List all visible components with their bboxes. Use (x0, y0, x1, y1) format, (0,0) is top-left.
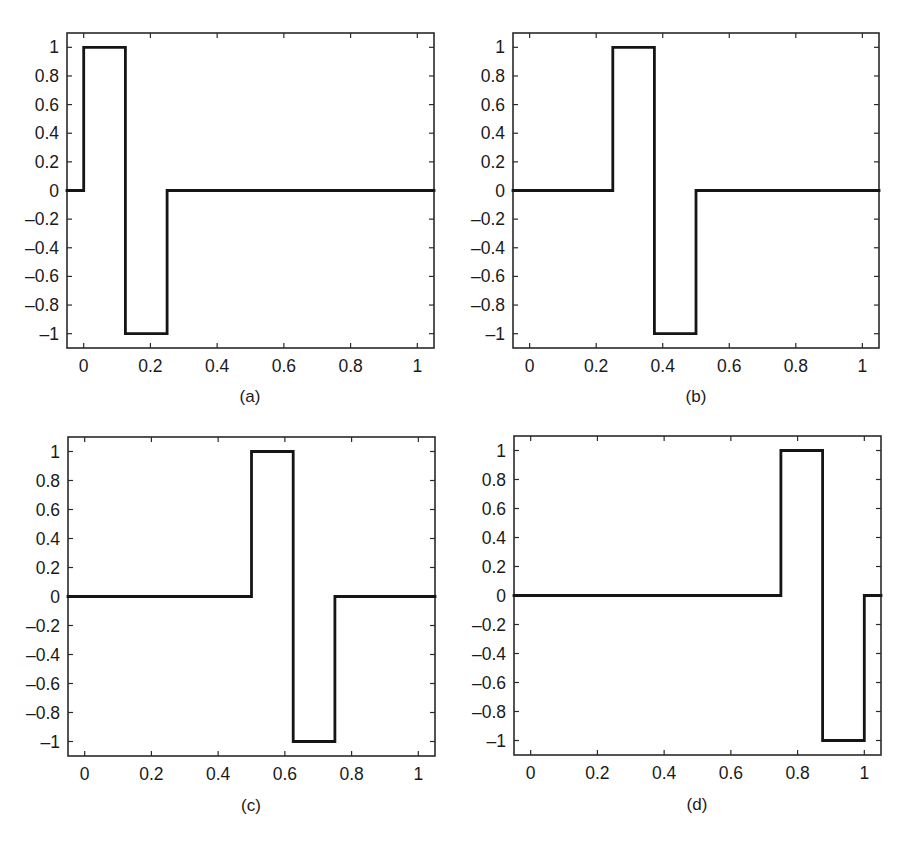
y-tick-label: 1 (495, 37, 505, 57)
x-tick-label: 1 (857, 356, 867, 376)
wavelet-curve (513, 47, 879, 333)
y-tick-label: –0.2 (25, 209, 59, 229)
x-tick-label: 0.4 (206, 764, 231, 784)
y-tick-label: –0.4 (471, 238, 505, 258)
y-tick-label: 1 (496, 441, 506, 461)
y-tick-label: 0.8 (481, 66, 505, 86)
x-tick-label: 0 (80, 764, 90, 784)
x-tick-label: 0.4 (652, 763, 677, 783)
y-tick-label: 0.6 (482, 499, 506, 519)
figure-canvas: 10.80.60.40.20–0.2–0.4–0.6–0.8–1 00.20.4… (0, 0, 900, 841)
panel-a: 10.80.60.40.20–0.2–0.4–0.6–0.8–1 00.20.4… (25, 33, 434, 406)
y-tick-label: –0.4 (25, 238, 59, 258)
wavelet-curve (514, 451, 881, 741)
y-tick-label: –1 (41, 732, 60, 752)
y-tick-label: –0.8 (25, 295, 59, 315)
y-tick-label: –1 (486, 324, 505, 344)
haar-wavelet-figure: 10.80.60.40.20–0.2–0.4–0.6–0.8–1 00.20.4… (0, 0, 900, 841)
x-tick-label: 0.8 (339, 764, 363, 784)
x-tick-label: 0.6 (272, 356, 296, 376)
x-tick-label: 0.4 (651, 356, 676, 376)
panel-caption: (b) (686, 387, 707, 406)
y-tick-label: 0.6 (36, 500, 60, 520)
panel-caption: (d) (687, 795, 708, 814)
y-tick-label: 0.4 (35, 123, 60, 143)
y-tick-label: –0.6 (25, 266, 59, 286)
wavelet-curve (68, 452, 435, 742)
y-tick-label: –0.2 (471, 209, 505, 229)
y-tick-label: 0.4 (482, 528, 507, 548)
y-tick-label: –0.6 (472, 673, 506, 693)
y-tick-label: 0.6 (35, 95, 59, 115)
y-tick-label: –1 (40, 324, 59, 344)
y-tick-label: –0.2 (472, 615, 506, 635)
x-axis-ticks: 00.20.40.60.81 (526, 436, 869, 783)
y-tick-label: –0.6 (471, 266, 505, 286)
x-tick-label: 0.2 (584, 356, 608, 376)
y-tick-label: 0 (495, 181, 505, 201)
x-tick-label: 0.6 (717, 356, 741, 376)
x-tick-label: 1 (412, 356, 422, 376)
panel-b: 10.80.60.40.20–0.2–0.4–0.6–0.8–1 00.20.4… (471, 33, 879, 406)
y-tick-label: –0.8 (26, 703, 60, 723)
x-tick-label: 0.6 (273, 764, 297, 784)
panel-d: 10.80.60.40.20–0.2–0.4–0.6–0.8–1 00.20.4… (472, 436, 881, 814)
y-tick-label: 0 (50, 587, 60, 607)
y-tick-label: –0.4 (26, 645, 60, 665)
y-tick-label: 0.2 (35, 152, 59, 172)
y-tick-label: 0 (496, 586, 506, 606)
wavelet-curve (67, 47, 434, 333)
x-axis-ticks: 00.20.40.60.81 (79, 33, 422, 376)
panel-caption: (a) (240, 387, 261, 406)
x-tick-label: 1 (859, 763, 869, 783)
x-tick-label: 0.8 (785, 763, 809, 783)
x-tick-label: 0.8 (338, 356, 362, 376)
x-tick-label: 0.8 (784, 356, 808, 376)
y-tick-label: 0.8 (35, 66, 59, 86)
y-tick-label: 0.2 (482, 557, 506, 577)
x-tick-label: 0 (526, 763, 536, 783)
y-tick-label: –1 (487, 731, 506, 751)
panel-caption: (c) (241, 796, 261, 815)
y-tick-label: 0.8 (36, 471, 60, 491)
y-tick-label: 0.4 (481, 123, 506, 143)
y-tick-label: 1 (50, 442, 60, 462)
x-tick-label: 0.4 (205, 356, 230, 376)
x-tick-label: 0 (79, 356, 89, 376)
y-tick-label: 0.8 (482, 470, 506, 490)
y-tick-label: 0 (49, 181, 59, 201)
y-tick-label: 0.2 (481, 152, 505, 172)
y-tick-label: –0.8 (472, 702, 506, 722)
y-tick-label: 1 (49, 37, 59, 57)
x-tick-label: 0.6 (719, 763, 743, 783)
x-tick-label: 0.2 (585, 763, 609, 783)
x-tick-label: 1 (413, 764, 423, 784)
y-tick-label: 0.2 (36, 558, 60, 578)
x-tick-label: 0 (525, 356, 535, 376)
y-tick-label: –0.4 (472, 644, 506, 664)
y-tick-label: 0.6 (481, 95, 505, 115)
y-tick-label: –0.6 (26, 674, 60, 694)
y-tick-label: –0.2 (26, 616, 60, 636)
panel-c: 10.80.60.40.20–0.2–0.4–0.6–0.8–1 00.20.4… (26, 437, 435, 815)
y-tick-label: –0.8 (471, 295, 505, 315)
y-tick-label: 0.4 (36, 529, 61, 549)
x-tick-label: 0.2 (139, 764, 163, 784)
x-tick-label: 0.2 (138, 356, 162, 376)
